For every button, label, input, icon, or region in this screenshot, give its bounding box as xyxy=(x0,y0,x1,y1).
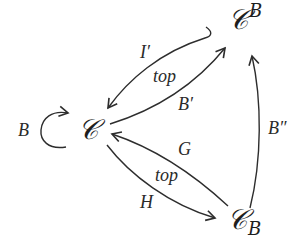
label-H: H xyxy=(140,192,153,213)
node-CB-sup-symbol: 𝒞 xyxy=(228,4,248,35)
loop-arrow-B xyxy=(41,112,68,147)
label-loop-B: B xyxy=(18,120,29,141)
node-C-subscript-B: 𝒞B xyxy=(227,204,261,237)
label-I-prime: I′ xyxy=(140,42,150,63)
commutative-diagram: 𝒞 𝒞B 𝒞B B I′ top B′ B″ G top H xyxy=(0,0,305,251)
arrow-B-double-prime xyxy=(250,56,259,208)
label-B-double-prime: B″ xyxy=(268,118,287,139)
label-B-prime: B′ xyxy=(178,94,193,115)
label-top-upper: top xyxy=(153,66,176,87)
node-CB-subscript: B xyxy=(248,218,261,239)
node-CB-sub-symbol: 𝒞 xyxy=(227,204,247,235)
node-C-superscript-B: 𝒞B xyxy=(228,4,262,37)
node-C: 𝒞 xyxy=(78,114,98,147)
label-G: G xyxy=(178,139,191,160)
label-top-lower: top xyxy=(155,165,178,186)
node-CB-superscript: B xyxy=(249,0,262,21)
node-C-symbol: 𝒞 xyxy=(78,114,98,145)
